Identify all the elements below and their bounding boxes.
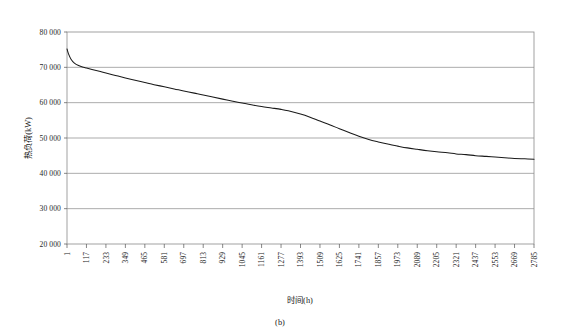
x-tick-label: 349 bbox=[121, 252, 130, 264]
x-tick-label: 2437 bbox=[471, 252, 480, 267]
series-line-heat-load bbox=[67, 49, 534, 159]
x-tick-label: 813 bbox=[199, 252, 208, 264]
x-tick-marks-group bbox=[67, 244, 534, 248]
y-tick-label: 30 000 bbox=[40, 204, 62, 213]
gridlines-group bbox=[67, 67, 534, 208]
x-tick-label: 1509 bbox=[316, 252, 325, 267]
figure-caption: (b) bbox=[275, 318, 285, 327]
x-axis-title: 时间(h) bbox=[287, 295, 313, 305]
x-tick-label: 2553 bbox=[491, 252, 500, 267]
x-tick-label: 2785 bbox=[530, 252, 539, 267]
y-axis-title: 热负荷(kW) bbox=[23, 117, 33, 159]
y-tick-label: 60 000 bbox=[40, 98, 62, 107]
y-tick-label: 20 000 bbox=[40, 240, 62, 249]
x-tick-label: 2089 bbox=[413, 252, 422, 267]
x-tick-label: 233 bbox=[102, 252, 111, 264]
y-tick-label: 50 000 bbox=[40, 134, 62, 143]
y-tick-label: 40 000 bbox=[40, 169, 62, 178]
x-tick-label: 1625 bbox=[335, 252, 344, 267]
x-tick-label: 581 bbox=[160, 252, 169, 264]
x-tick-label: 1857 bbox=[374, 252, 383, 267]
x-tick-label: 1973 bbox=[393, 252, 402, 267]
x-tick-label: 2321 bbox=[452, 252, 461, 267]
data-series-group bbox=[67, 49, 534, 159]
x-tick-label: 1161 bbox=[257, 252, 266, 267]
x-tick-label: 929 bbox=[218, 252, 227, 264]
x-tick-label: 465 bbox=[140, 252, 149, 264]
x-tick-labels-group: 1117233349465581697813929104511611277139… bbox=[63, 252, 539, 267]
y-tick-label: 70 000 bbox=[40, 63, 62, 72]
y-tick-label: 80 000 bbox=[40, 28, 62, 37]
heat-load-duration-chart: 80 00070 00060 00050 00040 00030 00020 0… bbox=[0, 0, 561, 335]
x-tick-label: 1 bbox=[63, 252, 72, 256]
x-tick-label: 117 bbox=[82, 252, 91, 263]
y-tick-labels-group: 80 00070 00060 00050 00040 00030 00020 0… bbox=[40, 28, 67, 249]
x-tick-label: 2669 bbox=[510, 252, 519, 267]
x-tick-label: 1393 bbox=[296, 252, 305, 267]
x-tick-label: 2205 bbox=[432, 252, 441, 267]
figure-panel: 80 00070 00060 00050 00040 00030 00020 0… bbox=[0, 0, 561, 335]
x-tick-label: 1277 bbox=[277, 252, 286, 267]
x-tick-label: 1741 bbox=[354, 252, 363, 267]
x-tick-label: 697 bbox=[179, 252, 188, 264]
x-tick-label: 1045 bbox=[238, 252, 247, 267]
